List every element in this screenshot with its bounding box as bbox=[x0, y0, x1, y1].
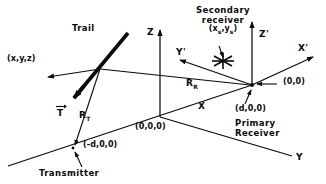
range-receiver-subscript: R bbox=[193, 83, 198, 90]
vector-t-label: T bbox=[57, 108, 64, 118]
transmitter-callout-arrow bbox=[75, 152, 82, 167]
transmitter-coordinate-label: (-d,0,0) bbox=[83, 141, 117, 150]
secondary-receiver-callout-arrow bbox=[219, 46, 223, 57]
primary-receiver-node bbox=[250, 83, 254, 87]
vector-t-arrow bbox=[74, 86, 84, 98]
axis-label-z: Z bbox=[147, 27, 154, 37]
secondary-receiver-label: Secondary receiver (xs,ys) bbox=[180, 6, 266, 35]
transmitter-marker bbox=[72, 147, 75, 150]
axis-label-y: Y bbox=[296, 152, 303, 162]
sec-coord-mid: ,y bbox=[221, 24, 229, 33]
origin-coordinate-label: (0,0,0) bbox=[135, 123, 166, 132]
axis-label-x: X bbox=[198, 101, 205, 111]
secondary-receiver-coordinate-label: (xs,ys) bbox=[180, 25, 266, 35]
sec-coord-close: ) bbox=[233, 24, 237, 33]
trail-point-coordinate-label: (x,y,z) bbox=[7, 55, 36, 64]
vector-t-glyph: T bbox=[57, 108, 64, 118]
range-transmitter-subscript: T bbox=[86, 115, 90, 122]
transmitter-label: Transmitter bbox=[39, 169, 99, 179]
range-receiver-label: RR bbox=[186, 78, 198, 91]
primary-receiver-label: Primary Receiver bbox=[235, 119, 280, 138]
primary-receiver-label-line2: Receiver bbox=[235, 129, 280, 139]
axis-label-x-prime: X' bbox=[298, 43, 309, 53]
diagram-canvas bbox=[0, 0, 326, 184]
trail-label: Trail bbox=[72, 24, 95, 34]
primary-receiver-coordinate-label: (d,0,0) bbox=[235, 105, 266, 114]
axis-x bbox=[8, 85, 252, 166]
range-transmitter-label: RT bbox=[79, 110, 90, 123]
primed-origin-coordinate-label: (0,0) bbox=[283, 78, 305, 87]
vector-overbar-arrow-icon bbox=[56, 104, 67, 109]
meteor-radar-geometry-figure: Trail (x,y,z) T RT RR Z Z' X X' Y Y' (0,… bbox=[0, 0, 326, 184]
primary-receiver-callout-arrow bbox=[245, 90, 251, 104]
sec-coord-open: (x bbox=[209, 24, 218, 33]
axis-label-y-prime: Y' bbox=[176, 47, 186, 57]
